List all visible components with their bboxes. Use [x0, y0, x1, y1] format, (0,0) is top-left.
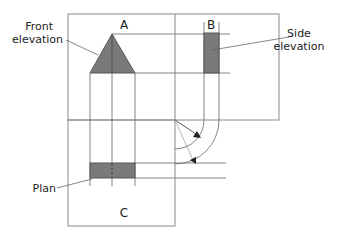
orthographic-projection-diagram: A B C Front elevation Side elevation Pla… [0, 0, 347, 239]
front-leader [66, 40, 98, 55]
plan-leader [57, 179, 92, 188]
plan-shape [90, 163, 135, 178]
label-c: C [120, 206, 128, 220]
plan-label: Plan [33, 182, 56, 195]
side-label-1: Side [287, 27, 311, 40]
side-label-2: elevation [274, 40, 325, 53]
side-elevation-shape [204, 33, 219, 73]
label-a: A [120, 18, 129, 32]
front-label-1: Front [25, 20, 54, 33]
label-b: B [207, 18, 215, 32]
arc-inner [175, 120, 204, 149]
front-elevation-shape [90, 34, 135, 73]
arc-outer [175, 120, 219, 164]
front-label-2: elevation [12, 33, 63, 46]
